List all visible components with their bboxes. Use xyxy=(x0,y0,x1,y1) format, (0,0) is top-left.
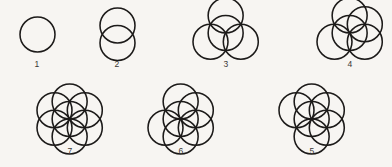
circle-1 xyxy=(20,17,55,52)
figure-label-2: 2 xyxy=(102,59,132,69)
diagram-canvas: 1234765 xyxy=(0,0,392,167)
figure-circles-4 xyxy=(311,0,388,65)
figure-circles-3 xyxy=(187,0,264,65)
figure-label-5: 5 xyxy=(297,146,327,156)
circle-2 xyxy=(208,0,243,33)
figure-label-4: 4 xyxy=(335,59,365,69)
figure-label-3: 3 xyxy=(211,59,241,69)
figure-label-6: 6 xyxy=(166,146,196,156)
figure-circles-2 xyxy=(94,2,141,67)
figure-label-7: 7 xyxy=(55,146,85,156)
figure-circles-1 xyxy=(14,11,61,58)
figure-label-1: 1 xyxy=(22,59,52,69)
